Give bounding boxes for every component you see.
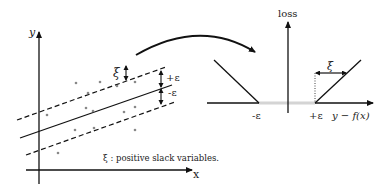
svr-diagram: y x ξ xyxy=(0,0,388,192)
right-plus-eps-label: +ε xyxy=(309,110,323,121)
data-point xyxy=(134,106,137,109)
slack-caption: ξ : positive slack variables. xyxy=(103,153,219,163)
loss-axis-label: loss xyxy=(278,8,297,19)
data-point xyxy=(85,107,88,110)
data-point xyxy=(57,152,60,155)
right-x-axis-label: y − f(x) xyxy=(331,110,370,121)
left-xi-label: ξ xyxy=(113,66,121,80)
data-point xyxy=(46,114,49,117)
left-minus-eps-label: -ε xyxy=(168,87,177,98)
data-point xyxy=(99,81,102,84)
data-point xyxy=(134,81,137,84)
left-y-axis-label: y xyxy=(28,26,36,39)
left-plot: y x ξ xyxy=(17,26,219,184)
data-point xyxy=(93,127,96,130)
left-loss-arm xyxy=(214,60,259,103)
left-x-axis-label: x xyxy=(193,168,200,181)
right-xi-label: ξ xyxy=(327,60,334,73)
transition-arrow xyxy=(136,36,255,55)
data-point xyxy=(92,110,95,113)
right-minus-eps-label: -ε xyxy=(252,110,261,121)
data-point xyxy=(134,129,137,132)
right-plot: loss ξ -ε +ε y − f(x) xyxy=(207,8,373,121)
data-point xyxy=(87,92,90,95)
data-point xyxy=(123,111,126,114)
data-point xyxy=(74,129,77,132)
left-plus-eps-label: +ε xyxy=(166,72,180,83)
data-point xyxy=(116,85,119,88)
right-loss-arm xyxy=(315,60,361,103)
data-point xyxy=(75,82,78,85)
